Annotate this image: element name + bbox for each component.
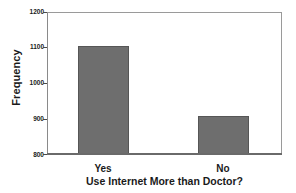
y-tick-label: 800	[22, 151, 44, 158]
y-tick-label: 1200	[22, 8, 44, 15]
x-tick-label: No	[216, 163, 229, 174]
y-tick-1200: 1200	[22, 8, 44, 15]
y-tick-800: 800	[22, 151, 44, 158]
x-axis-label: Use Internet More than Doctor?	[47, 174, 282, 188]
bar-chart: Frequency 1200 1100 1000 900 800 Yes No …	[0, 0, 296, 193]
bar-no	[198, 116, 249, 154]
y-tick-label: 1000	[22, 79, 44, 86]
y-tick-label: 900	[22, 115, 44, 122]
x-tick-label: Yes	[94, 163, 111, 174]
y-tick-900: 900	[22, 115, 44, 122]
y-axis-label: Frequency	[8, 0, 24, 155]
y-tick-1000: 1000	[22, 79, 44, 86]
bar-yes	[78, 46, 129, 154]
y-tick-label: 1100	[22, 43, 44, 50]
plot-area	[48, 13, 281, 154]
y-tick-1100: 1100	[22, 43, 44, 50]
plot-frame	[47, 12, 282, 155]
